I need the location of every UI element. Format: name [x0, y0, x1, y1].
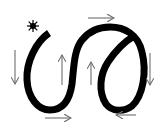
main-path-curve [27, 27, 144, 110]
diagram-canvas: Path traversal direction diagram [0, 0, 167, 135]
star-burst-icon [27, 20, 39, 32]
diagram-svg [0, 0, 167, 135]
